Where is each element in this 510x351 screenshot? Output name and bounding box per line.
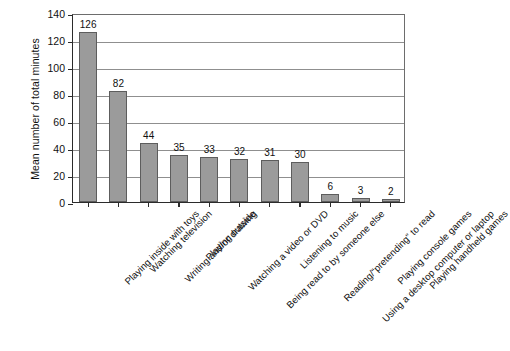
x-tick-mark: [118, 202, 119, 207]
bar-value-label: 30: [280, 149, 320, 160]
y-tick-label: 80: [53, 89, 65, 101]
bar-slot: 30: [285, 15, 315, 202]
bar[interactable]: [79, 32, 97, 202]
bar[interactable]: [321, 194, 339, 202]
bar-slot: 126: [73, 15, 103, 202]
bar-slot: 32: [224, 15, 254, 202]
x-tick-mark: [330, 202, 331, 207]
x-tick-mark: [360, 202, 361, 207]
x-tick-mark: [299, 202, 300, 207]
bar-slot: 44: [134, 15, 164, 202]
y-tick-label: 20: [53, 170, 65, 182]
x-tick-mark: [178, 202, 179, 207]
bar[interactable]: [109, 91, 127, 202]
x-tick-mark: [209, 202, 210, 207]
bar[interactable]: [261, 160, 279, 202]
bar[interactable]: [200, 157, 218, 202]
x-tick-mark: [88, 202, 89, 207]
bar-slot: 31: [255, 15, 285, 202]
y-tick-label: 100: [47, 62, 65, 74]
bar-value-label: 82: [98, 78, 138, 89]
y-tick-label: 60: [53, 116, 65, 128]
bars-container: 12682443533323130632: [73, 15, 404, 202]
bar[interactable]: [291, 162, 309, 203]
bar-slot: 33: [194, 15, 224, 202]
y-axis-title: Mean number of total minutes: [29, 14, 41, 204]
bar[interactable]: [140, 143, 158, 202]
x-axis-category-label: Using a desktop computer or laptop: [380, 208, 496, 324]
bar[interactable]: [230, 159, 248, 202]
bar-slot: 82: [103, 15, 133, 202]
x-axis-labels: Playing inside with toysWatching televis…: [72, 208, 405, 348]
x-axis-category-label: Being read to by someone else: [284, 208, 386, 310]
bar-value-label: 44: [129, 130, 169, 141]
bar[interactable]: [170, 155, 188, 202]
bar-slot: 2: [376, 15, 406, 202]
x-tick-mark: [148, 202, 149, 207]
plot-area: 020406080100120140 12682443533323130632: [72, 14, 405, 203]
y-tick-label: 0: [59, 197, 65, 209]
bar-slot: 3: [345, 15, 375, 202]
y-tick-mark: [68, 204, 73, 205]
bar-value-label: 126: [68, 19, 108, 30]
x-tick-mark: [269, 202, 270, 207]
bar-value-label: 2: [371, 186, 411, 197]
y-tick-label: 120: [47, 35, 65, 47]
bar-slot: 6: [315, 15, 345, 202]
y-tick-label: 40: [53, 143, 65, 155]
x-tick-mark: [390, 202, 391, 207]
x-tick-mark: [239, 202, 240, 207]
y-tick-label: 140: [47, 8, 65, 20]
bar-slot: 35: [164, 15, 194, 202]
